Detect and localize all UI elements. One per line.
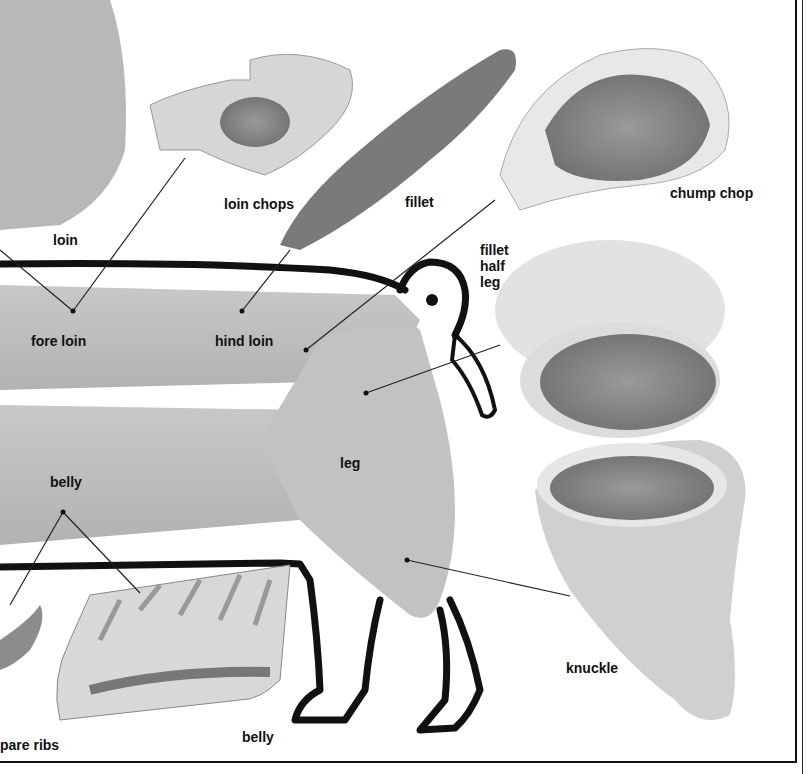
label-hind-loin: hind loin (215, 333, 273, 349)
label-leg: leg (340, 455, 360, 471)
label-knuckle: knuckle (566, 660, 618, 676)
spare-ribs-image (0, 605, 42, 670)
label-spare-ribs: pare ribs (0, 737, 59, 753)
label-belly-body: belly (50, 474, 82, 490)
label-fillet-half-leg: fillet half leg (480, 242, 520, 290)
pig-eye-icon (426, 294, 438, 306)
label-chump-chop: chump chop (670, 185, 753, 201)
label-fore-loin: fore loin (31, 333, 86, 349)
label-loin: loin (53, 232, 78, 248)
label-loin-chops: loin chops (224, 196, 294, 212)
belly-cut-image (57, 565, 290, 720)
label-fillet: fillet (405, 194, 434, 210)
belly-region (0, 405, 310, 545)
label-belly-cut: belly (242, 729, 274, 745)
loin-cut-image (0, 0, 126, 230)
pig-cuts-illustration (0, 0, 807, 774)
